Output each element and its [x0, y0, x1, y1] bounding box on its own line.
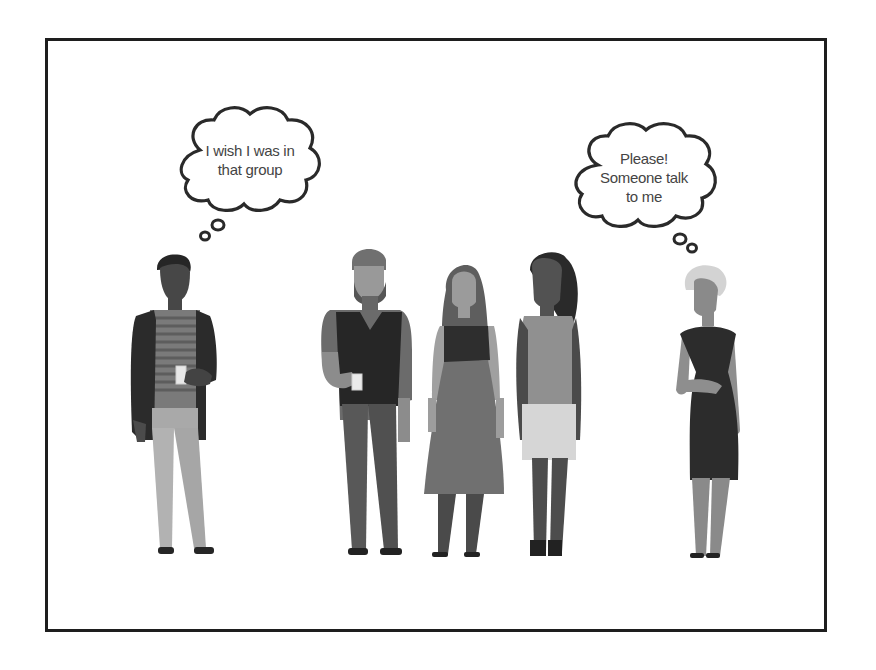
- illustration-scene: [0, 0, 876, 670]
- person-bearded-man: [321, 249, 412, 555]
- thought-line: to me: [574, 187, 714, 206]
- cup-icon: [352, 374, 362, 390]
- thought-text-left: I wish I was in that group: [180, 141, 320, 179]
- person-right-woman: [676, 265, 740, 558]
- thought-text-right: Please! Someone talk to me: [574, 149, 714, 206]
- person-woman-ponytail: [516, 252, 581, 556]
- thought-line: Please!: [574, 149, 714, 168]
- thought-dot-icon: [674, 234, 686, 244]
- thought-line: I wish I was in: [180, 141, 320, 160]
- person-woman-skirt: [424, 265, 504, 557]
- person-left-man: [131, 255, 217, 554]
- thought-dot-icon: [212, 220, 224, 230]
- thought-dot-icon: [688, 244, 697, 252]
- thought-line: that group: [180, 160, 320, 179]
- thought-dot-icon: [201, 232, 210, 240]
- thought-line: Someone talk: [574, 168, 714, 187]
